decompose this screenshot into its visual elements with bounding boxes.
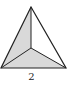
figure-label: 2 [0, 71, 63, 83]
pyramid-diagram [0, 0, 76, 72]
